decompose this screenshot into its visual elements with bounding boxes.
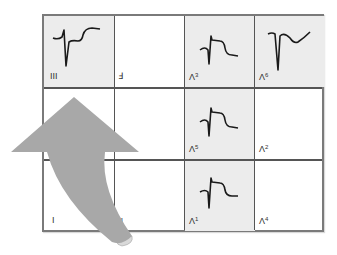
curved-up-arrow-icon (0, 0, 337, 255)
